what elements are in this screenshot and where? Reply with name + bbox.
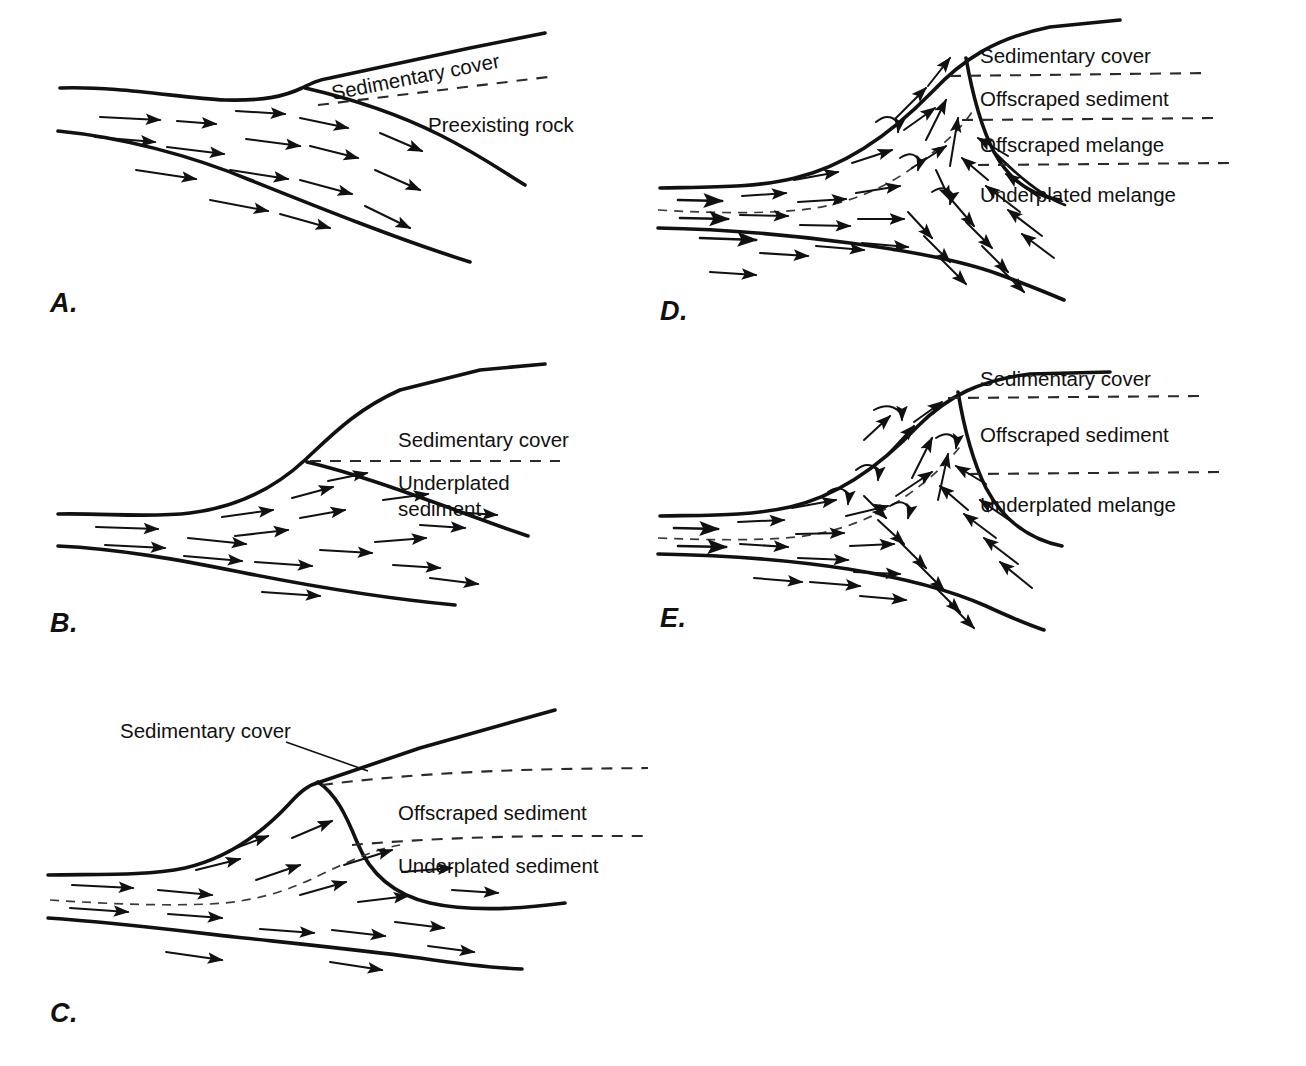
panel-letter-d: D.	[660, 296, 688, 327]
panel-b-label-sedimentary-cover: Sedimentary cover	[398, 428, 569, 451]
panel-letter-a: A.	[50, 288, 78, 319]
panel-e-rising-arrows	[864, 402, 948, 500]
panel-b-label-underplated-2: sediment	[398, 497, 481, 520]
panel-e-label-offscraped-sediment: Offscraped sediment	[980, 423, 1169, 446]
panel-e-eddy-arrows	[828, 406, 956, 518]
panel-d: Sedimentary cover Offscraped sediment Of…	[650, 0, 1306, 300]
figure-caption-cutoff	[36, 1053, 1276, 1066]
panel-letter-c: C.	[50, 998, 78, 1029]
panel-d-contact-3-dash	[978, 163, 1230, 165]
panel-b-decollement	[58, 546, 455, 605]
panel-b: Sedimentary cover Underplated sediment	[0, 350, 660, 620]
panel-c-sedimentary-cover-leader	[286, 742, 368, 771]
panel-a-label-preexisting-rock: Preexisting rock	[428, 113, 575, 136]
panel-e-interior-dash	[658, 444, 962, 540]
panel-d-label-underplated-melange: Underplated melange	[980, 183, 1176, 206]
panel-e-backstop	[958, 392, 1062, 546]
panel-e-label-underplated-melange: Underplated melange	[980, 493, 1176, 516]
panel-a-decollement	[58, 131, 470, 262]
panel-d-interior-dash	[658, 112, 972, 213]
panel-e-decollement	[658, 554, 1044, 630]
panel-c-offscraped-contact-dash	[352, 836, 648, 845]
panel-d-inflow-arrows	[678, 200, 756, 240]
panel-e-descending-arrows	[864, 496, 974, 628]
panel-letter-b: B.	[50, 608, 78, 639]
panel-c: Sedimentary cover Offscraped sediment Un…	[0, 690, 700, 1000]
panel-c-label-sedimentary-cover: Sedimentary cover	[120, 719, 291, 742]
panel-e-label-sedimentary-cover: Sedimentary cover	[980, 367, 1151, 390]
panel-c-flow-arrows	[70, 821, 498, 970]
panel-a-flow-arrows	[95, 111, 422, 228]
panel-a: Sedimentary cover Preexisting rock	[0, 0, 660, 300]
panel-d-label-sedimentary-cover: Sedimentary cover	[980, 44, 1151, 67]
panel-b-label-underplated-1: Underplated	[398, 471, 510, 494]
panel-d-label-offscraped-melange: Offscraped melange	[980, 133, 1164, 156]
panel-c-cover-contact-dash	[322, 768, 648, 785]
panel-e-inflow-arrows	[674, 528, 726, 547]
panel-d-contact-1-dash	[950, 73, 1210, 76]
panel-c-decollement	[48, 918, 522, 969]
figure-canvas: Sedimentary cover Preexisting rock A.	[0, 0, 1306, 1066]
panel-e-contact-2-dash	[968, 472, 1222, 474]
panel-e-contact-1-dash	[948, 396, 1206, 398]
panel-c-label-offscraped-sediment: Offscraped sediment	[398, 801, 587, 824]
panel-d-label-offscraped-sediment: Offscraped sediment	[980, 87, 1169, 110]
panel-letter-e: E.	[660, 603, 686, 634]
panel-c-label-underplated-sediment: Underplated sediment	[398, 854, 599, 877]
panel-a-label-sedimentary-cover: Sedimentary cover	[329, 49, 501, 104]
panel-e: Sedimentary cover Offscraped sediment Un…	[650, 350, 1306, 630]
panel-d-flow-arrows	[710, 108, 946, 275]
panel-d-contact-2-dash	[962, 118, 1222, 120]
